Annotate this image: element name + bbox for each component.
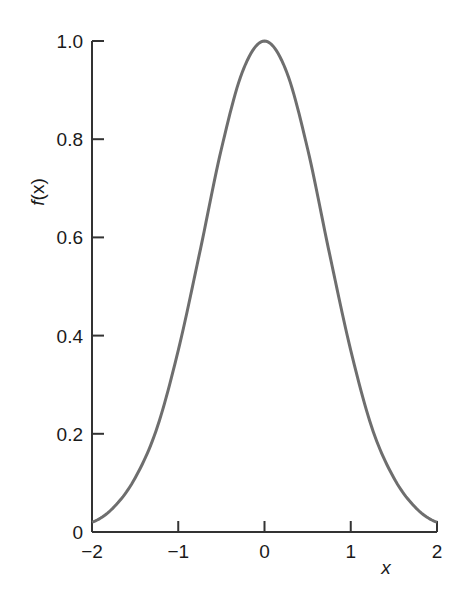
x-tick-label: 0 — [259, 541, 270, 562]
x-tick-label: −2 — [81, 541, 103, 562]
x-tick-label: −1 — [167, 541, 189, 562]
data-curve — [92, 41, 437, 522]
y-tick-label: 0.2 — [57, 424, 83, 445]
x-axis-title: x — [380, 557, 392, 578]
y-tick-label: 1.0 — [57, 31, 83, 52]
y-axis-title: f(x) — [27, 178, 48, 205]
y-tick-label: 0.4 — [57, 326, 84, 347]
chart: 00.20.40.60.81.0−2−1012 f(x) x — [0, 0, 471, 603]
y-tick-label: 0 — [72, 522, 83, 543]
y-tick-label: 0.6 — [57, 227, 83, 248]
y-tick-label: 0.8 — [57, 129, 83, 150]
x-tick-label: 1 — [345, 541, 356, 562]
tick-labels: 00.20.40.60.81.0−2−1012 — [57, 31, 443, 562]
x-tick-label: 2 — [432, 541, 443, 562]
